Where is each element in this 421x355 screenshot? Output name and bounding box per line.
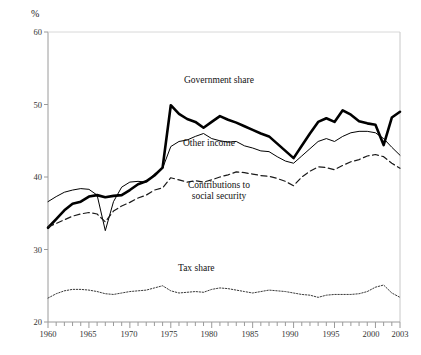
y-axis-tick-marks	[44, 32, 48, 322]
y-tick-label-40: 40	[24, 173, 42, 182]
x-tick-label-1985: 1985	[233, 330, 267, 339]
y-tick-label-60: 60	[24, 28, 42, 37]
x-tick-label-1965: 1965	[71, 330, 105, 339]
x-axis-tick-marks	[48, 322, 400, 328]
line-chart-canvas	[0, 0, 421, 355]
y-axis-unit-label: %	[31, 9, 39, 19]
series-label-contributions-social-security: Contributions to social security	[173, 180, 265, 202]
series-line-tax-share	[48, 285, 400, 298]
x-tick-label-1960: 1960	[31, 330, 65, 339]
series-label-tax-share: Tax share	[178, 263, 215, 274]
x-tick-label-1970: 1970	[112, 330, 146, 339]
y-tick-label-20: 20	[24, 318, 42, 327]
y-tick-label-50: 50	[24, 101, 42, 110]
contributions-label-line1: Contributions to	[188, 180, 250, 190]
x-tick-label-1975: 1975	[152, 330, 186, 339]
chart-container: % 60 50 40 30 20 1960 1965 1970 1975 198…	[0, 0, 421, 355]
contributions-label-line2: social security	[192, 191, 247, 201]
y-tick-label-30: 30	[24, 246, 42, 255]
x-tick-label-2003: 2003	[383, 330, 417, 339]
x-tick-label-1995: 1995	[314, 330, 348, 339]
series-label-other-income: Other income	[183, 138, 235, 149]
series-label-government-share: Government share	[184, 75, 254, 86]
x-tick-label-1980: 1980	[192, 330, 226, 339]
x-tick-label-1990: 1990	[273, 330, 307, 339]
